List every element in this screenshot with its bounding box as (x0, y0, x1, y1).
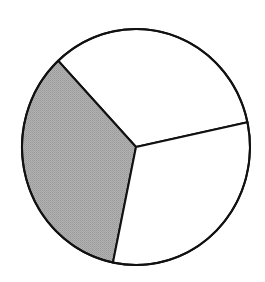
pie-chart (0, 0, 265, 282)
pie-slices (22, 29, 250, 265)
